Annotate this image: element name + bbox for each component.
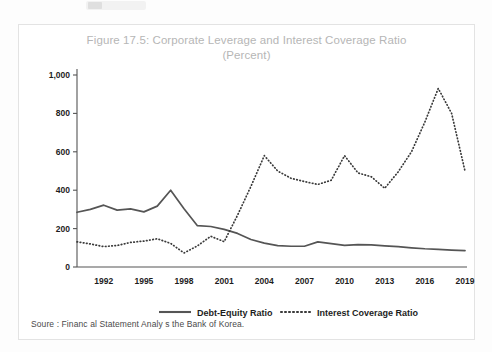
y-axis-tick-label: 1,000 [49,70,71,80]
x-axis-tick-label: 2013 [375,276,394,286]
x-axis-tick-label: 1995 [134,276,153,286]
x-axis-tick-label: 2019 [456,276,475,286]
legend-label-debt-equity: Debt-Equity Ratio [197,308,273,318]
x-axis-tick-label: 2010 [335,276,354,286]
y-axis-tick-label: 400 [56,185,70,195]
scan-artifact-dark [88,2,102,9]
x-axis-tick-label: 2016 [415,276,434,286]
chart-plot: 02004006008001,0001992199519982001200420… [19,25,476,341]
source-note: Soure : Financ al Statement Analy s the … [31,319,244,329]
y-axis-tick-label: 200 [56,224,70,234]
y-axis-tick-label: 800 [56,108,70,118]
x-axis-tick-label: 2007 [295,276,314,286]
series-line-interest-coverage [77,88,465,253]
x-axis-tick-label: 2004 [255,276,274,286]
page-canvas: Figure 17.5: Corporate Leverage and Inte… [0,0,492,352]
x-axis-tick-label: 1992 [94,276,113,286]
y-axis-tick-label: 600 [56,147,70,157]
x-axis-tick-label: 2001 [215,276,234,286]
legend-label-interest-coverage: Interest Coverage Ratio [317,308,419,318]
x-axis-tick-label: 1998 [175,276,194,286]
figure-frame: Figure 17.5: Corporate Leverage and Inte… [18,24,475,340]
y-axis-tick-label: 0 [65,262,70,272]
series-line-debt-equity [77,190,465,250]
